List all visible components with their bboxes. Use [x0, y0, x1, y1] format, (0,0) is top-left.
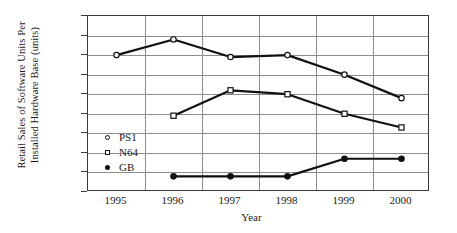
data-point-gb — [342, 156, 347, 161]
legend-symbol — [105, 150, 110, 155]
y-axis-tick-mark — [81, 191, 87, 192]
data-point-gb — [285, 174, 290, 179]
legend-label: PS1 — [118, 130, 137, 145]
legend-label: N64 — [118, 145, 138, 160]
legend-label: GB — [118, 160, 134, 175]
legend-marker-square-open-icon — [105, 150, 118, 155]
y-axis-title: Retail Sales of Software Units Per Insta… — [11, 0, 47, 203]
legend: PS1N64GB — [105, 130, 138, 175]
data-point-n64 — [342, 111, 347, 116]
data-point-n64 — [285, 92, 290, 97]
x-axis-title: Year — [0, 211, 457, 223]
data-point-ps1 — [342, 72, 347, 77]
legend-item-gb: GB — [105, 160, 138, 175]
data-point-n64 — [228, 88, 233, 93]
data-point-ps1 — [114, 52, 119, 57]
data-point-gb — [171, 174, 176, 179]
y-axis-title-line1: Retail Sales of Software Units Per — [16, 21, 29, 168]
legend-marker-circle-open-icon — [105, 135, 118, 140]
x-axis-tick-label: 2000 — [366, 195, 436, 206]
plot-area — [87, 15, 429, 191]
legend-symbol — [105, 165, 110, 170]
data-point-gb — [228, 174, 233, 179]
data-point-ps1 — [399, 95, 404, 100]
legend-item-ps1: PS1 — [105, 130, 138, 145]
legend-item-n64: N64 — [105, 145, 138, 160]
data-point-gb — [399, 156, 404, 161]
series-layer — [88, 16, 430, 192]
data-point-n64 — [171, 113, 176, 118]
y-axis-title-line2: Installed Hardware Base (units) — [29, 27, 42, 163]
data-point-n64 — [399, 125, 404, 130]
line-chart: Retail Sales of Software Units Per Insta… — [0, 0, 457, 233]
data-point-ps1 — [285, 52, 290, 57]
series-line-ps1 — [117, 39, 402, 98]
data-point-ps1 — [228, 54, 233, 59]
data-point-ps1 — [171, 37, 176, 42]
legend-symbol — [105, 135, 110, 140]
legend-marker-circle-filled-icon — [105, 165, 118, 170]
